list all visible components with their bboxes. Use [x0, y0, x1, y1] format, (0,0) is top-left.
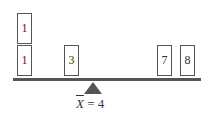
- balance-beam: [13, 78, 201, 81]
- data-box-7: 7: [157, 45, 172, 76]
- data-box-3: 3: [64, 45, 79, 76]
- x-bar-symbol: X: [76, 96, 84, 111]
- fulcrum-triangle-icon: [84, 82, 102, 94]
- data-box-8: 8: [180, 45, 195, 76]
- mean-value: = 4: [84, 96, 104, 111]
- data-box-1-bottom: 1: [17, 45, 32, 76]
- mean-label: X = 4: [76, 96, 104, 112]
- data-box-1-top: 1: [17, 13, 32, 44]
